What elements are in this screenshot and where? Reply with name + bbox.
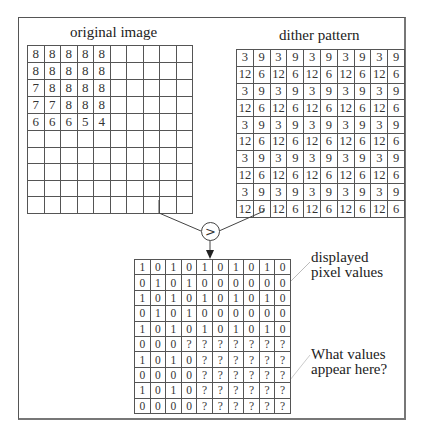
displayed-pixel-cell: ?	[275, 336, 291, 351]
displayed-pixel-cell: 1	[259, 260, 275, 275]
displayed-pixel-cell: 1	[259, 290, 275, 305]
displayed-pixel-cell: 0	[228, 275, 244, 290]
displayed-pixel-cell: 0	[135, 336, 151, 351]
displayed-pixel-cell: ?	[244, 367, 260, 382]
displayed-pixel-cell: 0	[212, 306, 228, 321]
displayed-pixel-cell: ?	[275, 398, 291, 413]
displayed-pixel-cell: 1	[150, 306, 166, 321]
displayed-pixel-cell: ?	[228, 336, 244, 351]
displayed-pixel-cell: 1	[135, 260, 151, 275]
displayed-pixel-cell: ?	[212, 336, 228, 351]
displayed-pixel-cell: 1	[166, 290, 182, 305]
displayed-pixel-cell: ?	[212, 383, 228, 398]
displayed-pixel-cell: ?	[228, 398, 244, 413]
displayed-pixel-cell: 0	[244, 260, 260, 275]
displayed-pixel-cell: 1	[166, 321, 182, 336]
displayed-pixel-cell: 0	[135, 398, 151, 413]
displayed-pixel-cell: 1	[197, 290, 213, 305]
displayed-pixel-cell: 0	[166, 398, 182, 413]
displayed-pixel-cell: 0	[181, 260, 197, 275]
displayed-pixel-cell: ?	[181, 336, 197, 351]
displayed-pixel-cell: 0	[212, 321, 228, 336]
displayed-pixel-cell: 0	[275, 290, 291, 305]
displayed-pixel-cell: 0	[181, 367, 197, 382]
question-label-line2: appear here?	[311, 362, 387, 377]
displayed-pixel-cell: ?	[259, 352, 275, 367]
displayed-pixel-cell: 0	[181, 383, 197, 398]
displayed-pixel-cell: 1	[181, 275, 197, 290]
displayed-pixel-cell: 1	[135, 290, 151, 305]
displayed-pixel-cell: 0	[166, 306, 182, 321]
displayed-pixel-cell: 0	[181, 321, 197, 336]
displayed-pixel-cell: ?	[197, 383, 213, 398]
displayed-pixel-cell: 1	[197, 321, 213, 336]
displayed-pixel-cell: 0	[228, 306, 244, 321]
grid-row: 0000??????	[135, 398, 291, 413]
displayed-pixel-cell: ?	[259, 336, 275, 351]
displayed-pixel-cell: 1	[135, 383, 151, 398]
displayed-pixel-cell: 0	[275, 275, 291, 290]
displayed-pixel-cell: 1	[181, 306, 197, 321]
displayed-pixel-cell: 1	[228, 290, 244, 305]
displayed-pixel-cell: 0	[212, 275, 228, 290]
displayed-pixel-cell: 0	[244, 275, 260, 290]
displayed-pixel-grid: 1010101010010100000010101010100101000000…	[134, 259, 291, 414]
displayed-pixel-cell: ?	[259, 383, 275, 398]
displayed-pixel-cell: ?	[244, 383, 260, 398]
displayed-pixel-cell: ?	[228, 383, 244, 398]
displayed-pixel-cell: 0	[150, 290, 166, 305]
displayed-label-line2: pixel values	[311, 265, 383, 280]
grid-row: 0101000000	[135, 275, 291, 290]
displayed-pixel-cell: 0	[150, 336, 166, 351]
displayed-label-line1: displayed	[311, 250, 369, 265]
grid-row: 0000??????	[135, 367, 291, 382]
displayed-pixel-cell: 0	[166, 367, 182, 382]
displayed-pixel-cell: ?	[212, 352, 228, 367]
displayed-pixel-cell: ?	[197, 398, 213, 413]
displayed-pixel-cell: 0	[244, 306, 260, 321]
displayed-pixel-cell: 1	[228, 260, 244, 275]
grid-row: 1010101010	[135, 260, 291, 275]
displayed-pixel-cell: ?	[259, 367, 275, 382]
displayed-pixel-cell: 0	[135, 275, 151, 290]
displayed-pixel-cell: 0	[166, 275, 182, 290]
displayed-pixel-cell: ?	[197, 352, 213, 367]
displayed-pixel-cell: 0	[275, 321, 291, 336]
displayed-pixel-cell: ?	[275, 352, 291, 367]
displayed-pixel-cell: ?	[228, 367, 244, 382]
grid-row: 1010101010	[135, 290, 291, 305]
displayed-pixel-cell: 1	[166, 260, 182, 275]
displayed-pixel-cell: 1	[197, 260, 213, 275]
displayed-pixel-cell: 0	[275, 306, 291, 321]
displayed-pixel-cell: 0	[244, 290, 260, 305]
displayed-pixel-cell: ?	[275, 367, 291, 382]
displayed-pixel-cell: 1	[166, 383, 182, 398]
displayed-pixel-cell: 0	[181, 398, 197, 413]
displayed-pixel-cell: ?	[228, 352, 244, 367]
displayed-pixel-cell: 0	[150, 352, 166, 367]
displayed-pixel-cell: 1	[135, 321, 151, 336]
displayed-pixel-cell: 0	[259, 275, 275, 290]
displayed-pixel-cell: 0	[150, 383, 166, 398]
grid-row: 1010??????	[135, 383, 291, 398]
question-label-line1: What values	[311, 347, 386, 362]
displayed-pixel-cell: 1	[228, 321, 244, 336]
displayed-pixel-cell: 0	[150, 367, 166, 382]
displayed-pixel-cell: 0	[150, 321, 166, 336]
displayed-pixel-cell: 1	[135, 352, 151, 367]
grid-row: 1010101010	[135, 321, 291, 336]
displayed-pixel-cell: 1	[150, 275, 166, 290]
displayed-pixel-cell: 0	[259, 306, 275, 321]
displayed-pixel-cell: 0	[197, 275, 213, 290]
displayed-pixel-cell: 0	[181, 352, 197, 367]
displayed-pixel-cell: ?	[275, 383, 291, 398]
displayed-pixel-cell: 0	[166, 336, 182, 351]
greater-than-comparator-icon: >	[201, 222, 220, 241]
displayed-pixel-cell: 0	[275, 260, 291, 275]
displayed-pixel-cell: 0	[197, 306, 213, 321]
grid-row: 1010??????	[135, 352, 291, 367]
displayed-pixel-cell: ?	[259, 398, 275, 413]
grid-row: 000???????	[135, 336, 291, 351]
displayed-pixel-cell: 0	[181, 290, 197, 305]
displayed-pixel-cell: ?	[244, 398, 260, 413]
